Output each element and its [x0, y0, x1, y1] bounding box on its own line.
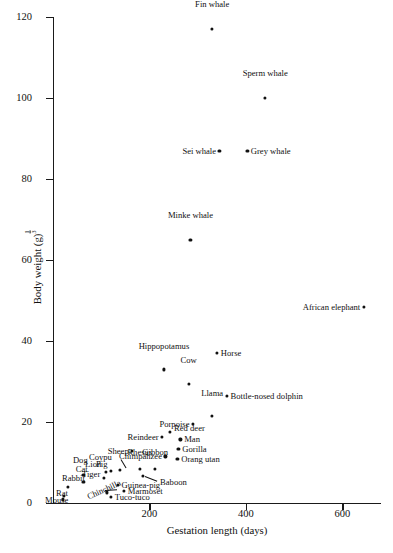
data-label-gibbon: Gibbon [142, 448, 168, 457]
data-point-llama [211, 414, 214, 417]
data-point-red-deer [169, 431, 172, 434]
data-point-gorilla [177, 448, 180, 451]
y-tick-80 [46, 179, 53, 180]
data-label-sperm-whale: Sperm whale [243, 69, 288, 78]
data-label-red-deer: Red deer [174, 423, 205, 432]
data-point-cow [187, 382, 190, 385]
data-label-gorilla: Gorilla [182, 445, 206, 454]
data-point-sei-whale [218, 149, 221, 152]
data-label-horse: Horse [221, 349, 242, 358]
data-label-baboon: Baboon [160, 477, 187, 486]
y-tick-label-100: 100 [16, 93, 32, 104]
data-point-african-elephant [363, 305, 366, 308]
data-point-reindeer [160, 435, 163, 438]
y-tick-100 [46, 98, 53, 99]
x-tick-label-200: 200 [142, 509, 158, 520]
data-label-hippopotamus: Hippopotamus [139, 342, 190, 351]
y-tick-40 [46, 341, 53, 342]
y-tick-label-120: 120 [16, 12, 32, 23]
y-tick-label-20: 20 [22, 417, 33, 428]
data-point-orang-utan [176, 458, 179, 461]
x-axis-title: Gestation length (days) [53, 524, 381, 536]
data-label-sei-whale: Sei whale [182, 146, 216, 155]
data-label-rabbit: Rabbit [62, 473, 85, 482]
y-axis-title-text: Body weight (g) [31, 234, 43, 305]
data-label-bottle-nosed-dolphin: Bottle-nosed dolphin [231, 391, 303, 400]
data-label-reindeer: Reindeer [128, 432, 159, 441]
data-point-horse [215, 352, 218, 355]
data-label-tuco-tuco: Tuco-tuco [115, 492, 150, 501]
data-point-minke-whale [189, 238, 192, 241]
y-tick-20 [46, 422, 53, 423]
data-point-grey-whale [246, 149, 249, 152]
data-point-fin-whale [211, 28, 214, 31]
data-point-hippopotamus [162, 368, 165, 371]
y-tick-120 [46, 17, 53, 18]
data-point-tuco-tuco [109, 495, 112, 498]
data-label-minke-whale: Minke whale [168, 211, 213, 220]
y-axis-exponent: 13 [24, 230, 37, 233]
data-label-orang-utan: Orang utan [181, 455, 219, 464]
x-tick-label-600: 600 [335, 509, 351, 520]
data-point-rhesus [138, 467, 141, 470]
data-point-coypu [118, 468, 121, 471]
data-point-gibbon [154, 467, 157, 470]
data-point-sperm-whale [264, 96, 267, 99]
data-point-tiger [102, 476, 105, 479]
data-label-llama: Llama [201, 389, 223, 398]
data-point-man [179, 438, 182, 441]
data-label-mouse: Mouse [45, 496, 68, 505]
y-axis-title: Body weight (g)13 [25, 182, 44, 352]
scatter-plot-figure: 020406080100120 200400600 Body weight (g… [0, 0, 393, 553]
y-tick-60 [46, 260, 53, 261]
x-axis-line [53, 503, 381, 504]
x-tick-label-400: 400 [238, 509, 254, 520]
data-label-african-elephant: African elephant [303, 302, 361, 311]
y-tick-label-0: 0 [27, 498, 32, 509]
y-axis-line [53, 17, 54, 504]
data-point-lion [104, 471, 107, 474]
data-label-cow: Cow [180, 356, 196, 365]
data-point-baboon [142, 475, 145, 478]
data-label-fin-whale: Fin whale [195, 0, 229, 9]
data-label-man: Man [184, 435, 200, 444]
data-point-pig [109, 469, 112, 472]
data-label-grey-whale: Grey whale [251, 146, 291, 155]
data-point-bottle-nosed-dolphin [225, 394, 228, 397]
